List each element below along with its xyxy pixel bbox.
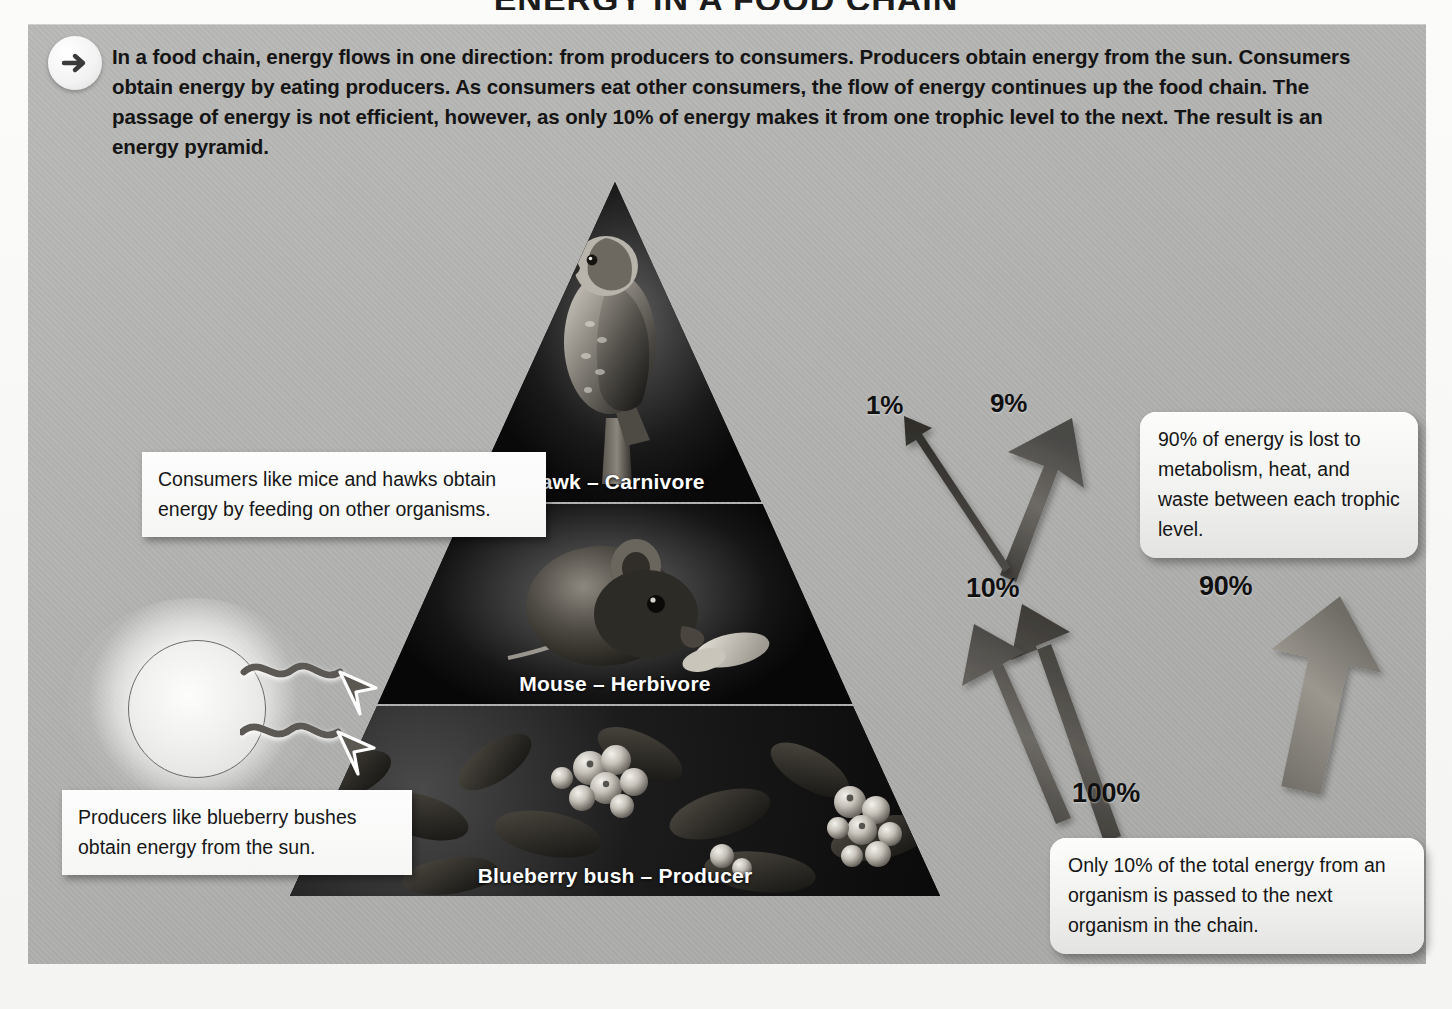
callout-producers: Producers like blueberry bushes obtain e… — [62, 790, 412, 875]
hawk-photo — [510, 204, 720, 484]
percent-label-10: 10% — [966, 573, 1019, 604]
diagram-page: ENERGY IN A FOOD CHAIN In a food chain, … — [0, 0, 1452, 1009]
right-arrow-circle-icon — [48, 36, 102, 90]
percent-label-90: 90% — [1199, 571, 1252, 602]
callout-consumers: Consumers like mice and hawks obtain ene… — [142, 452, 546, 537]
percent-label-1: 1% — [866, 390, 903, 421]
intro-block: In a food chain, energy flows in one dir… — [112, 42, 1382, 162]
percent-label-9: 9% — [990, 388, 1027, 419]
intro-paragraph: In a food chain, energy flows in one dir… — [112, 42, 1382, 162]
percent-label-100: 100% — [1072, 778, 1140, 809]
callout-energy-passed: Only 10% of the total energy from an org… — [1050, 838, 1424, 954]
sun-group — [50, 588, 340, 818]
page-title: ENERGY IN A FOOD CHAIN — [0, 0, 1452, 10]
sun-ray-arrows — [240, 658, 450, 808]
mouse-photo — [450, 510, 780, 690]
callout-energy-lost: 90% of energy is lost to metabolism, hea… — [1140, 412, 1418, 558]
